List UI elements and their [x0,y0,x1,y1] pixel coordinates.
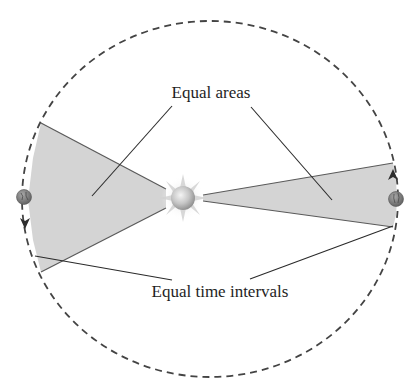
leader-line-time-right [250,226,393,279]
sun-icon [159,174,207,222]
keplers-second-law-diagram [0,0,416,381]
planet-right-icon [389,192,404,207]
leader-line-time-left [35,256,172,280]
swept-area-right [203,163,397,227]
equal-areas-label: Equal areas [172,84,251,101]
swept-area-left [28,123,166,272]
arrow-down-icon [20,218,30,229]
equal-time-intervals-label: Equal time intervals [152,283,289,300]
planet-left-icon [17,190,32,205]
